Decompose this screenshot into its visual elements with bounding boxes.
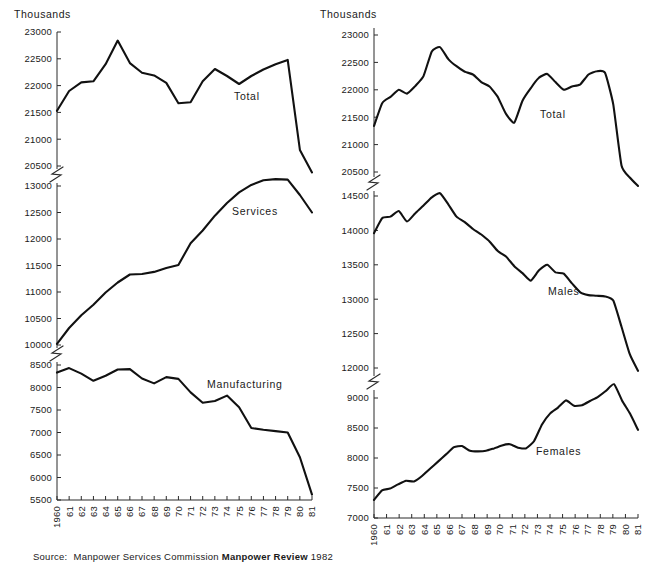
x-tick-label-79: 79 xyxy=(607,524,618,535)
x-tick-label-74: 74 xyxy=(221,506,232,517)
x-tick-label-77: 77 xyxy=(258,506,269,517)
y-tick-label-21500: 21500 xyxy=(342,112,369,123)
x-tick-label-70: 70 xyxy=(173,506,184,517)
y-tick-label-12500: 12500 xyxy=(342,328,369,339)
y-tick-label-14000: 14000 xyxy=(342,225,369,236)
y-tick-label-21000: 21000 xyxy=(25,134,52,145)
y-tick-label-7000: 7000 xyxy=(347,512,369,523)
x-tick-label-78: 78 xyxy=(595,524,606,535)
source-label: Source: xyxy=(33,551,68,562)
y-tick-label-8500: 8500 xyxy=(30,359,52,370)
y-tick-label-13000: 13000 xyxy=(342,294,369,305)
axis-break-mark-1 xyxy=(367,374,380,389)
series-annotation-manufacturing: Manufacturing xyxy=(207,378,283,390)
x-tick-label-68: 68 xyxy=(149,506,160,517)
y-tick-label-7500: 7500 xyxy=(30,404,52,415)
series-annotation-males: Males xyxy=(548,285,580,297)
x-tick-label-72: 72 xyxy=(519,524,530,535)
x-tick-label-75: 75 xyxy=(557,524,568,535)
y-tick-label-7500: 7500 xyxy=(347,482,369,493)
series-line-total xyxy=(57,41,312,173)
y-tick-label-20500: 20500 xyxy=(25,160,52,171)
y-tick-label-13000: 13000 xyxy=(25,180,52,191)
x-tick-label-68: 68 xyxy=(469,524,480,535)
x-tick-label-63: 63 xyxy=(88,506,99,517)
x-tick-label-74: 74 xyxy=(544,524,555,535)
left-chart-panel: 2300022500220002150021000205001300012500… xyxy=(0,0,320,545)
x-tick-label-1960: 1960 xyxy=(51,506,62,528)
x-tick-label-61: 61 xyxy=(64,506,75,517)
x-tick-label-64: 64 xyxy=(419,524,430,535)
x-tick-label-67: 67 xyxy=(456,524,467,535)
y-tick-label-21000: 21000 xyxy=(342,139,369,150)
source-note: Source:Manpower Services Commission Manp… xyxy=(33,551,333,562)
x-tick-label-71: 71 xyxy=(507,524,518,535)
series-annotation-total: Total xyxy=(234,90,260,102)
x-tick-label-70: 70 xyxy=(494,524,505,535)
left-chart-svg: 2300022500220002150021000205001300012500… xyxy=(0,0,320,545)
right-chart-svg: 2300022500220002150021000205001450014000… xyxy=(318,0,647,545)
x-tick-label-76: 76 xyxy=(570,524,581,535)
series-annotation-services: Services xyxy=(232,205,278,217)
y-tick-label-22500: 22500 xyxy=(25,53,52,64)
x-tick-label-73: 73 xyxy=(532,524,543,535)
x-tick-label-66: 66 xyxy=(124,506,135,517)
x-tick-label-80: 80 xyxy=(620,524,631,535)
x-tick-label-78: 78 xyxy=(270,506,281,517)
y-tick-label-21500: 21500 xyxy=(25,107,52,118)
x-tick-label-64: 64 xyxy=(100,506,111,517)
y-tick-label-6500: 6500 xyxy=(30,449,52,460)
x-tick-label-1960: 1960 xyxy=(368,524,379,545)
series-annotation-total: Total xyxy=(540,108,566,120)
y-tick-label-8500: 8500 xyxy=(347,422,369,433)
y-tick-label-23000: 23000 xyxy=(342,29,369,40)
y-tick-label-10500: 10500 xyxy=(25,313,52,324)
series-line-males xyxy=(374,193,638,371)
x-tick-label-77: 77 xyxy=(582,524,593,535)
y-tick-label-12000: 12000 xyxy=(25,233,52,244)
x-tick-label-61: 61 xyxy=(381,524,392,535)
x-tick-label-72: 72 xyxy=(197,506,208,517)
y-tick-label-22000: 22000 xyxy=(342,84,369,95)
y-tick-label-11500: 11500 xyxy=(25,260,52,271)
y-tick-label-13500: 13500 xyxy=(342,259,369,270)
x-tick-label-65: 65 xyxy=(112,506,123,517)
x-tick-label-62: 62 xyxy=(76,506,87,517)
y-tick-label-12000: 12000 xyxy=(342,362,369,373)
y-tick-label-23000: 23000 xyxy=(25,26,52,37)
x-tick-label-73: 73 xyxy=(209,506,220,517)
x-tick-label-66: 66 xyxy=(444,524,455,535)
y-tick-label-9000: 9000 xyxy=(347,392,369,403)
y-tick-label-20500: 20500 xyxy=(342,166,369,177)
employment-trends-figure: Thousands Thousands 23000225002200021500… xyxy=(0,0,647,581)
y-tick-label-7000: 7000 xyxy=(30,427,52,438)
y-tick-label-22000: 22000 xyxy=(25,80,52,91)
x-tick-label-65: 65 xyxy=(431,524,442,535)
y-tick-label-8000: 8000 xyxy=(347,452,369,463)
y-tick-label-8000: 8000 xyxy=(30,382,52,393)
x-tick-label-79: 79 xyxy=(282,506,293,517)
source-year: 1982 xyxy=(311,551,333,562)
series-line-females xyxy=(374,384,638,500)
y-tick-label-10000: 10000 xyxy=(25,339,52,350)
y-tick-label-11000: 11000 xyxy=(25,286,52,297)
source-organisation: Manpower Services Commission xyxy=(74,551,219,562)
x-tick-label-81: 81 xyxy=(632,524,643,535)
x-tick-label-69: 69 xyxy=(482,524,493,535)
x-tick-label-69: 69 xyxy=(161,506,172,517)
x-tick-label-67: 67 xyxy=(136,506,147,517)
right-chart-panel: 2300022500220002150021000205001450014000… xyxy=(318,0,647,545)
x-tick-label-76: 76 xyxy=(246,506,257,517)
series-line-total xyxy=(374,47,638,186)
y-tick-label-14500: 14500 xyxy=(342,190,369,201)
y-tick-label-12500: 12500 xyxy=(25,207,52,218)
x-tick-label-75: 75 xyxy=(234,506,245,517)
source-publication: Manpower Review xyxy=(222,551,308,562)
series-annotation-females: Females xyxy=(536,445,581,457)
y-tick-label-22500: 22500 xyxy=(342,57,369,68)
series-line-services xyxy=(57,179,312,344)
y-tick-label-5500: 5500 xyxy=(30,494,52,505)
x-tick-label-71: 71 xyxy=(185,506,196,517)
x-tick-label-62: 62 xyxy=(394,524,405,535)
y-tick-label-6000: 6000 xyxy=(30,472,52,483)
